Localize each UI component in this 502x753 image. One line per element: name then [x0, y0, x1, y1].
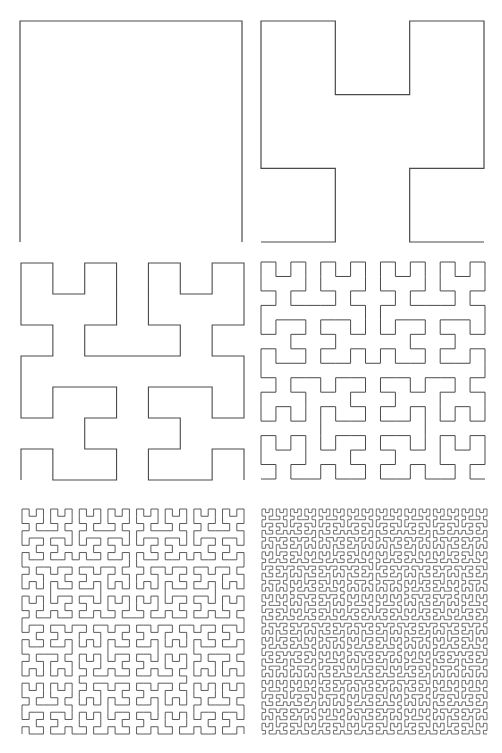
- figure-title: Hilbert curve iterations: [0, 0, 1, 1]
- curve-path: [262, 509, 487, 734]
- hilbert-panel-order-2: [261, 21, 484, 242]
- curve-path: [22, 509, 244, 734]
- hilbert-panel-order-3: [21, 263, 244, 480]
- hilbert-panel-order-1: [20, 21, 242, 242]
- hilbert-curve-order-5: [22, 509, 244, 734]
- hilbert-curve-order-6: [262, 509, 487, 734]
- hilbert-panel-order-6: [262, 509, 487, 734]
- hilbert-curve-order-4: [261, 262, 485, 479]
- hilbert-curve-order-1: [20, 21, 242, 242]
- hilbert-panel-order-4: [261, 262, 485, 479]
- hilbert-panel-order-5: [22, 509, 244, 734]
- hilbert-curve-order-3: [21, 263, 244, 480]
- curve-path: [261, 21, 484, 242]
- curve-path: [20, 21, 242, 242]
- curve-path: [261, 262, 485, 479]
- curve-path: [21, 263, 244, 480]
- hilbert-curve-order-2: [261, 21, 484, 242]
